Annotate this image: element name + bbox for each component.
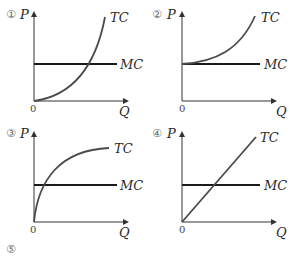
panel-2: ② P TC MC 0 Q (152, 7, 287, 119)
y-axis-label: P (166, 126, 176, 141)
mc-label: MC (119, 178, 143, 193)
tc-curve (34, 17, 105, 101)
tc-label: TC (261, 10, 280, 25)
tc-line (182, 137, 256, 222)
tc-curve (182, 16, 255, 64)
x-axis-label: Q (119, 225, 130, 240)
tc-label: TC (260, 130, 279, 145)
x-axis-label: Q (276, 104, 287, 119)
option-number: ④ (152, 127, 162, 140)
x-axis-label: Q (119, 104, 130, 119)
x-axis-label: Q (276, 225, 287, 240)
y-axis-label: P (166, 7, 176, 22)
option-number: ② (152, 8, 162, 21)
origin-label: 0 (179, 224, 185, 235)
y-axis-label: P (19, 126, 29, 141)
panel-4: ④ P TC MC 0 Q (152, 126, 287, 240)
option-number: ③ (6, 127, 16, 140)
tc-label: TC (114, 141, 133, 156)
cost-curve-diagrams: ① P TC MC 0 Q ② P TC MC 0 Q ③ P TC MC 0 … (0, 0, 290, 258)
panel-3: ③ P TC MC 0 Q (6, 126, 143, 240)
mc-label: MC (119, 57, 143, 72)
y-axis-label: P (19, 7, 29, 22)
origin-label: 0 (30, 224, 36, 235)
origin-label: 0 (30, 103, 36, 114)
origin-label: 0 (179, 103, 185, 114)
mc-label: MC (263, 57, 287, 72)
option-number-5: ⑤ (6, 243, 16, 256)
tc-label: TC (110, 10, 129, 25)
option-number: ① (6, 8, 16, 21)
mc-label: MC (263, 178, 287, 193)
panel-1: ① P TC MC 0 Q (6, 7, 143, 119)
